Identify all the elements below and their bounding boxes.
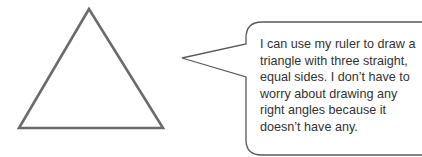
- callout-line: doesn’t have any.: [260, 119, 422, 136]
- callout-line: right angles because it: [260, 102, 422, 119]
- callout-text: I can use my ruler to draw a triangle wi…: [260, 36, 422, 136]
- callout-line: worry about drawing any: [260, 86, 422, 103]
- equilateral-triangle: [19, 9, 163, 128]
- callout-line: I can use my ruler to draw a: [260, 36, 422, 53]
- callout-line: triangle with three straight,: [260, 53, 422, 70]
- callout-line: equal sides. I don’t have to: [260, 69, 422, 86]
